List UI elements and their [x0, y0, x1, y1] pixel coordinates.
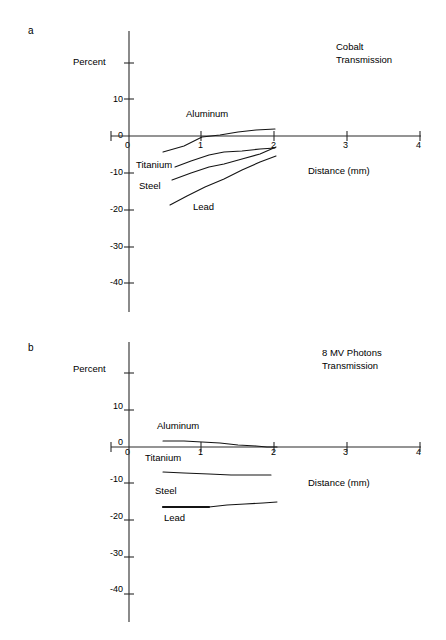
panel-a: a Cobalt Transmission Percent Distance (…: [0, 0, 446, 320]
panel-b-plot: [0, 320, 446, 640]
panel-a-curve-aluminum: [163, 129, 275, 152]
panel-b: b 8 MV Photons Transmission Percent Dist…: [0, 320, 446, 640]
panel-a-plot: [0, 0, 446, 320]
panel-b-curve-titanium: [163, 472, 271, 475]
panel-b-curve-aluminum: [163, 441, 277, 447]
figure-root: a Cobalt Transmission Percent Distance (…: [0, 0, 446, 640]
